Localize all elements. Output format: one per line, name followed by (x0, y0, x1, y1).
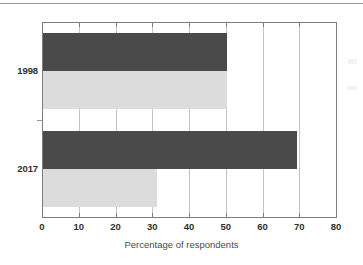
x-tick-label-80: 80 (321, 221, 351, 232)
y-axis-tick-labels: 19982017 (0, 22, 38, 218)
axis-tick (116, 22, 117, 27)
axis-tick (42, 213, 43, 218)
x-axis-title: Percentage of respondents (0, 239, 363, 250)
axis-tick (336, 213, 337, 218)
axis-tick (152, 22, 153, 27)
axis-tick (189, 22, 190, 27)
axis-tick (189, 213, 190, 218)
axis-tick (42, 22, 43, 27)
plot-area (42, 22, 337, 218)
axis-tick (263, 22, 264, 27)
axis-tick (226, 22, 227, 27)
x-axis-tick-labels: 01020304050607080 (0, 221, 363, 235)
axis-tick (299, 22, 300, 27)
bar-1998-series-2 (43, 71, 227, 109)
scan-artifact (347, 86, 357, 90)
bar-1998-series-1 (43, 33, 227, 71)
axis-tick (299, 213, 300, 218)
bar-2017-series-2 (43, 169, 157, 207)
x-tick-label-60: 60 (248, 221, 278, 232)
x-tick-label-0: 0 (27, 221, 57, 232)
axis-tick (79, 22, 80, 27)
x-tick-label-30: 30 (137, 221, 167, 232)
x-tick-label-70: 70 (284, 221, 314, 232)
bar-2017-series-1 (43, 131, 297, 169)
axis-tick (226, 213, 227, 218)
x-tick-label-20: 20 (101, 221, 131, 232)
axis-tick (152, 213, 153, 218)
axis-tick (263, 213, 264, 218)
gridline (263, 22, 264, 218)
axis-tick (336, 22, 337, 27)
bar-chart-figure: 19982017 01020304050607080 Percentage of… (0, 0, 363, 265)
x-tick-label-40: 40 (174, 221, 204, 232)
axis-tick (79, 213, 80, 218)
y-tick-label-2017: 2017 (2, 163, 38, 174)
axis-line-right (336, 22, 337, 218)
y-tick-label-1998: 1998 (2, 65, 38, 76)
gridline (299, 22, 300, 218)
x-tick-label-10: 10 (64, 221, 94, 232)
axis-tick (116, 213, 117, 218)
scan-artifact (348, 59, 357, 64)
x-tick-label-50: 50 (211, 221, 241, 232)
